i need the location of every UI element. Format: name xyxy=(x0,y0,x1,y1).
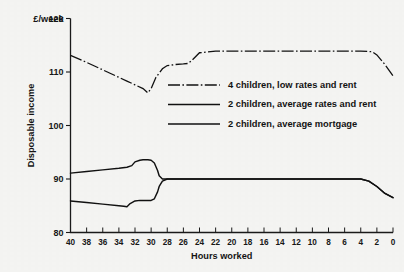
legend-label-3: 2 children, average mortgage xyxy=(228,119,357,129)
y-axis-tick-label: 80 xyxy=(53,228,63,238)
x-axis-tick-label: 40 xyxy=(66,238,76,247)
x-axis-tick-label: 16 xyxy=(259,238,269,247)
y-axis-tick-label: 100 xyxy=(48,121,63,131)
legend-label-2: 2 children, average rates and rent xyxy=(228,99,376,109)
x-axis-tick-label: 0 xyxy=(391,238,396,247)
series-line-3 xyxy=(71,179,394,207)
line-chart: 8090100110120403836343230282624222018161… xyxy=(0,0,404,272)
x-axis-tick-label: 32 xyxy=(130,238,140,247)
x-axis-tick-label: 22 xyxy=(211,238,221,247)
x-axis-tick-label: 2 xyxy=(375,238,380,247)
x-axis-tick-label: 34 xyxy=(114,238,124,247)
x-axis-tick-label: 18 xyxy=(243,238,253,247)
legend-label-1: 4 children, low rates and rent xyxy=(228,80,357,90)
x-axis-tick-label: 8 xyxy=(326,238,331,247)
x-axis-tick-label: 20 xyxy=(227,238,237,247)
x-axis-tick-label: 38 xyxy=(82,238,92,247)
x-axis-tick-label: 24 xyxy=(195,238,205,247)
y-axis-tick-label: 90 xyxy=(53,174,63,184)
y-axis-tick-label: 110 xyxy=(49,67,64,77)
x-axis-tick-label: 10 xyxy=(308,238,318,247)
y-axis-unit-label: £/week xyxy=(33,14,64,24)
chart-screenshot: 8090100110120403836343230282624222018161… xyxy=(0,0,404,272)
x-axis-tick-label: 26 xyxy=(179,238,189,247)
x-axis-tick-label: 12 xyxy=(292,238,302,247)
x-axis-tick-label: 30 xyxy=(147,238,157,247)
x-axis-title: Hours worked xyxy=(191,251,252,261)
x-axis-tick-label: 14 xyxy=(276,238,286,247)
x-axis-tick-label: 4 xyxy=(358,238,363,247)
y-axis-title: Disposable income xyxy=(26,84,36,168)
x-axis-tick-label: 36 xyxy=(98,238,108,247)
x-axis-tick-label: 28 xyxy=(163,238,173,247)
x-axis-tick-label: 6 xyxy=(342,238,347,247)
